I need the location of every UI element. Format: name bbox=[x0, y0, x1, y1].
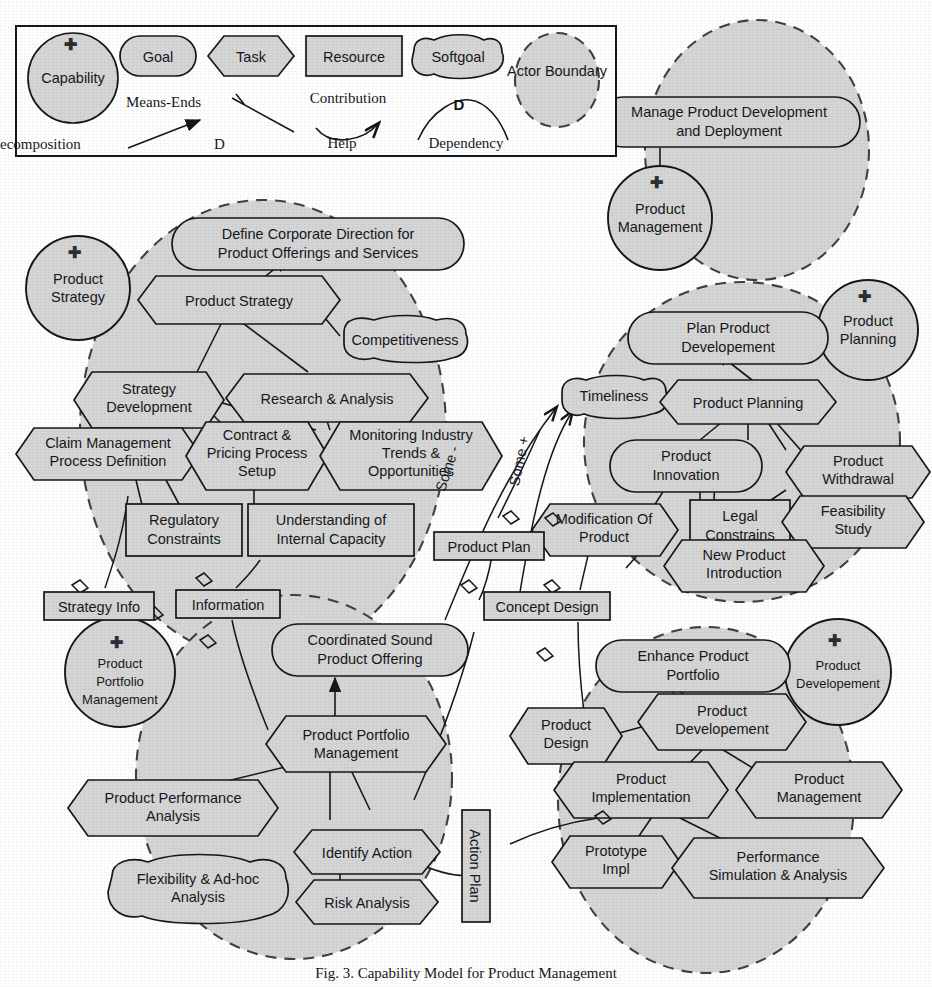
softgoal-line2: Analysis bbox=[171, 889, 225, 905]
capability-glyph-product-planning: ✚ bbox=[858, 288, 871, 305]
actor-label-line1: Product bbox=[98, 656, 143, 671]
goal-line2: Innovation bbox=[653, 467, 720, 483]
goal-line2: Portfolio bbox=[666, 667, 719, 683]
actor-label-line3: Management bbox=[82, 692, 158, 707]
task-line2: Study bbox=[834, 521, 872, 537]
task-line1: Claim Management bbox=[45, 435, 171, 451]
task-line1: Product Planning bbox=[693, 395, 803, 411]
legend-contribution-label: Contribution bbox=[310, 90, 387, 106]
task-line1: Product bbox=[833, 453, 883, 469]
task-line1: Product bbox=[794, 771, 844, 787]
legend-dependency-marker: D bbox=[454, 96, 465, 113]
group-product-portfolio-management: ✚ Product Portfolio Management bbox=[65, 617, 175, 727]
goal-line1: Plan Product bbox=[686, 320, 769, 336]
softgoal-line1: Flexibility & Ad-hoc bbox=[137, 871, 260, 887]
goal-line1: Coordinated Sound bbox=[308, 632, 433, 648]
legend-actor-boundary-shape bbox=[515, 33, 599, 127]
resource-line1: Understanding of bbox=[276, 512, 387, 528]
resource-line1: Information bbox=[192, 597, 265, 613]
goal-line2: Product Offerings and Services bbox=[218, 245, 418, 261]
resource-line1: Concept Design bbox=[495, 599, 598, 615]
resource-line1: Strategy Info bbox=[58, 599, 140, 615]
diagram-canvas: ✚ Product Management Manage Product Deve… bbox=[0, 0, 932, 987]
resource-line1: Action Plan bbox=[467, 829, 483, 902]
task-line1: Modification Of bbox=[556, 511, 654, 527]
actor-label-line1: Product bbox=[635, 201, 685, 217]
figure-caption: Fig. 3. Capability Model for Product Man… bbox=[315, 965, 617, 981]
actor-label-line2: Developement bbox=[796, 676, 880, 691]
group-product-developement: ✚ Product Developement bbox=[785, 619, 891, 725]
softgoal-line1: Competitiveness bbox=[351, 332, 458, 348]
legend-dependency-label: Dependency bbox=[429, 135, 504, 151]
group-product-planning: ✚ Product Planning bbox=[818, 280, 918, 380]
task-line1: Feasibility bbox=[821, 503, 886, 519]
task-line2: Pricing Process bbox=[207, 445, 308, 461]
resource-action-plan[interactable]: Action Plan bbox=[462, 810, 490, 922]
legend-actor-boundary-label-line1: Actor Boundary bbox=[507, 63, 608, 79]
actor-label-line2: Planning bbox=[840, 331, 896, 347]
task-line2: Introduction bbox=[706, 565, 782, 581]
task-line2: Simulation & Analysis bbox=[709, 867, 848, 883]
legend-softgoal-label: Softgoal bbox=[431, 49, 484, 65]
resource-line2: Constraints bbox=[147, 531, 220, 547]
legend-goal-label: Goal bbox=[143, 49, 174, 65]
task-line1: Risk Analysis bbox=[324, 895, 409, 911]
task-line1: Strategy bbox=[122, 381, 177, 397]
actor-label-line2: Portfolio bbox=[96, 674, 144, 689]
task-line2: Withdrawal bbox=[822, 471, 894, 487]
task-line1: Performance bbox=[736, 849, 819, 865]
task-line2: Impl bbox=[602, 861, 629, 877]
actor-label-line1: Product bbox=[53, 271, 103, 287]
actor-label-line2: Management bbox=[618, 219, 703, 235]
task-line1: Product bbox=[616, 771, 666, 787]
task-line1: Product Performance bbox=[104, 790, 241, 806]
goal-line1: Define Corporate Direction for bbox=[222, 226, 415, 242]
task-line3: Setup bbox=[238, 463, 276, 479]
actor-label-line2: Strategy bbox=[51, 289, 106, 305]
task-line1: Monitoring Industry bbox=[349, 427, 473, 443]
legend-means-ends-label: Means-Ends bbox=[126, 94, 201, 110]
contribution-label-some-plus: Some + bbox=[506, 435, 532, 488]
task-line2: Process Definition bbox=[50, 453, 167, 469]
task-line2: Analysis bbox=[146, 808, 200, 824]
resource-line1: Regulatory bbox=[149, 512, 220, 528]
capability-glyph-product-strategy: ✚ bbox=[68, 244, 81, 261]
task-line1: Contract & bbox=[223, 427, 292, 443]
task-line1: Prototype bbox=[585, 843, 647, 859]
actor-label-line1: Product bbox=[816, 658, 861, 673]
capability-glyph-product-portfolio: ✚ bbox=[110, 634, 123, 651]
goal-line1: Product bbox=[661, 448, 711, 464]
task-line2: Product bbox=[579, 529, 629, 545]
task-line1: Identify Action bbox=[322, 845, 412, 861]
capability-glyph-product-developement: ✚ bbox=[828, 632, 841, 649]
task-line1: Product Portfolio bbox=[302, 727, 409, 743]
actor-label-line1: Product bbox=[843, 313, 893, 329]
goal-line2: and Deployment bbox=[676, 123, 782, 139]
task-line2: Design bbox=[543, 735, 588, 751]
legend-capability-label: Capability bbox=[41, 70, 105, 86]
goal-line1: Manage Product Development bbox=[631, 104, 827, 120]
task-line2: Management bbox=[314, 745, 399, 761]
task-line1: New Product bbox=[702, 547, 785, 563]
goal-line2: Product Offering bbox=[317, 651, 422, 667]
task-line2: Developement bbox=[675, 721, 769, 737]
legend: ✚ Capability Goal Task Resource Softgoal… bbox=[0, 26, 616, 156]
goal-line1: Enhance Product bbox=[637, 648, 748, 664]
capability-glyph-product-management: ✚ bbox=[650, 174, 663, 191]
goal-line2: Developement bbox=[681, 339, 775, 355]
capability-glyph-legend: ✚ bbox=[64, 36, 77, 53]
task-line1: Product bbox=[697, 703, 747, 719]
task-product-portfolio-management[interactable] bbox=[266, 716, 446, 772]
resource-line1: Product Plan bbox=[447, 539, 530, 555]
group-product-strategy: ✚ Product Strategy bbox=[26, 236, 130, 340]
task-line2: Development bbox=[106, 399, 191, 415]
task-line2: Management bbox=[777, 789, 862, 805]
legend-resource-label: Resource bbox=[323, 49, 385, 65]
resource-line2: Internal Capacity bbox=[277, 531, 387, 547]
task-line2: Implementation bbox=[591, 789, 690, 805]
task-line2: Trends & bbox=[382, 445, 441, 461]
resource-line1: Legal bbox=[722, 508, 757, 524]
legend-help-label: Help bbox=[327, 135, 356, 151]
task-line1: Research & Analysis bbox=[261, 391, 394, 407]
task-line1: Product bbox=[541, 717, 591, 733]
